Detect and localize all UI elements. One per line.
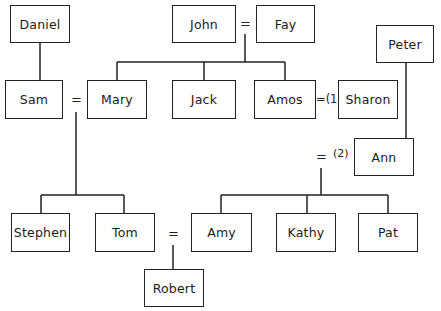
person-sam: Sam: [5, 80, 63, 119]
person-kathy: Kathy: [276, 213, 336, 252]
person-robert: Robert: [144, 269, 204, 307]
marriage-symbol-sam-mary: =: [71, 93, 82, 106]
person-ann: Ann: [354, 138, 414, 176]
person-amos: Amos: [254, 80, 316, 119]
person-john: John: [172, 5, 236, 43]
marriage-symbol-tom-amy: =: [168, 227, 179, 240]
person-stephen: Stephen: [11, 213, 70, 252]
person-peter: Peter: [376, 25, 434, 63]
person-jack: Jack: [172, 80, 236, 119]
person-pat: Pat: [358, 213, 418, 252]
person-tom: Tom: [95, 213, 155, 252]
person-amy: Amy: [191, 213, 252, 252]
marriage-order-note: (2): [333, 148, 349, 159]
person-mary: Mary: [87, 80, 147, 119]
person-daniel: Daniel: [10, 5, 70, 43]
person-sharon: Sharon: [338, 80, 398, 119]
person-fay: Fay: [256, 5, 315, 43]
marriage-symbol-amos-ann: =: [316, 150, 327, 163]
marriage-symbol-john-fay: =: [240, 17, 251, 30]
